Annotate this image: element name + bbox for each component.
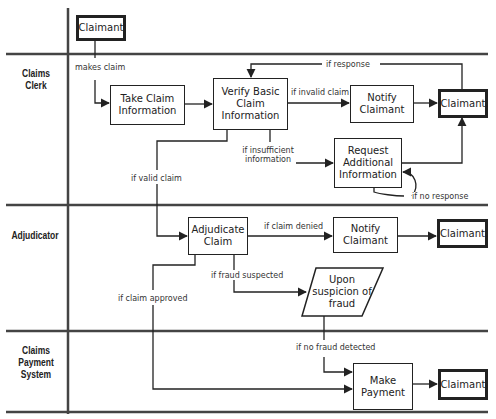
label-if-invalid-claim: if invalid claim bbox=[291, 88, 349, 97]
take-claim-text: Take Claim Information bbox=[117, 93, 178, 117]
claimant-adj-node: Claimant bbox=[437, 219, 488, 248]
take-claim-node: Take Claim Information bbox=[110, 85, 185, 125]
request-additional-node: Request Additional Information bbox=[334, 138, 402, 188]
claimant-start-node: Claimant bbox=[76, 15, 126, 41]
lane-claims-clerk-text: Claims Clerk bbox=[22, 68, 50, 91]
label-if-insufficient-information: if insufficient information bbox=[240, 146, 296, 164]
label-makes-claim: makes claim bbox=[75, 63, 125, 72]
label-if-no-response: if no response bbox=[412, 192, 468, 201]
claimant-start-text: Claimant bbox=[79, 22, 124, 34]
label-if-fraud-suspected: if fraud suspected bbox=[211, 271, 283, 280]
lane-label-adjudicator: Adjudicator bbox=[7, 230, 63, 242]
upon-suspicion-node: Upon suspicion of fraud bbox=[310, 274, 374, 310]
request-additional-text: Request Additional Information bbox=[338, 145, 398, 181]
label-if-claim-approved: if claim approved bbox=[118, 294, 187, 303]
claimant-adj-text: Claimant bbox=[440, 228, 485, 240]
claimant-clerk-node: Claimant bbox=[438, 89, 488, 118]
upon-suspicion-text: Upon suspicion of fraud bbox=[312, 274, 371, 309]
notify-clerk-text: Notify Claimant bbox=[357, 92, 407, 116]
lane-adjudicator-text: Adjudicator bbox=[11, 230, 58, 241]
make-payment-text: Make Payment bbox=[361, 375, 405, 399]
lane-label-claims-payment-system: Claims Payment System bbox=[12, 345, 60, 381]
make-payment-node: Make Payment bbox=[353, 363, 413, 410]
notify-claimant-adj-node: Notify Claimant bbox=[333, 217, 398, 253]
label-if-response: if response bbox=[326, 60, 370, 69]
claimant-payment-node: Claimant bbox=[438, 369, 488, 400]
verify-basic-node: Verify Basic Claim Information bbox=[213, 78, 288, 130]
notify-claimant-clerk-node: Notify Claimant bbox=[350, 85, 414, 123]
lane-label-claims-clerk: Claims Clerk bbox=[12, 68, 60, 92]
label-if-claim-denied: if claim denied bbox=[264, 222, 323, 231]
claimant-payment-text: Claimant bbox=[441, 379, 486, 391]
adjudicate-text: Adjudicate Claim bbox=[189, 224, 247, 248]
adjudicate-claim-node: Adjudicate Claim bbox=[188, 217, 248, 255]
label-if-no-fraud-detected: if no fraud detected bbox=[296, 343, 375, 352]
verify-basic-text: Verify Basic Claim Information bbox=[218, 86, 283, 122]
notify-adj-text: Notify Claimant bbox=[340, 223, 391, 247]
label-if-valid-claim: if valid claim bbox=[131, 174, 182, 183]
claimant-clerk-text: Claimant bbox=[441, 98, 486, 110]
lane-payment-text: Claims Payment System bbox=[18, 345, 53, 380]
